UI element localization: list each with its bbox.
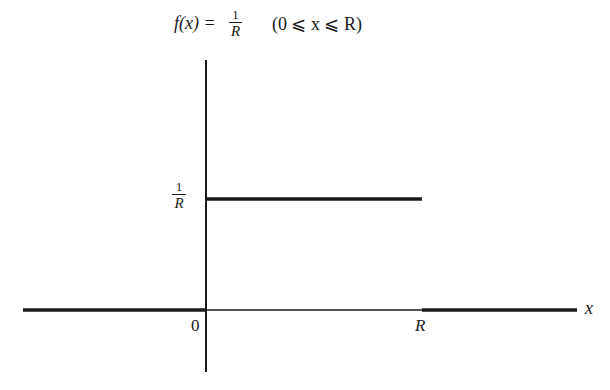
- y-tick-den: R: [174, 196, 183, 211]
- formula-frac-num: 1: [232, 8, 239, 21]
- r-tick-label: R: [415, 316, 425, 336]
- formula-title: f(x) =: [174, 13, 216, 34]
- x-axis-label: x: [585, 298, 593, 319]
- y-tick-label: 1 R: [172, 180, 186, 211]
- condition-text: (0 ⩽ x ⩽ R): [272, 14, 362, 34]
- formula-fraction: 1 R: [229, 8, 242, 39]
- origin-label: 0: [191, 316, 200, 336]
- formula-frac-den: R: [231, 24, 240, 39]
- y-tick-num: 1: [176, 180, 183, 193]
- diagram-canvas: [0, 0, 610, 390]
- formula-condition: (0 ⩽ x ⩽ R): [272, 13, 362, 35]
- formula-lhs: f(x) =: [174, 13, 216, 33]
